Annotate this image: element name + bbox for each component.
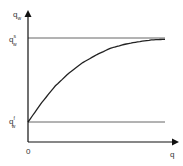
x-axis-arrow-icon	[172, 139, 179, 146]
chart: qw qsw qfw 0 q	[0, 0, 183, 166]
y-axis-arrow-icon	[25, 10, 32, 17]
origin-label: 0	[26, 147, 31, 156]
x-axis-label: q	[170, 150, 174, 159]
y-axis-label: qw	[13, 10, 21, 21]
lower-level-label: qfw	[9, 115, 16, 129]
upper-level-label: qsw	[9, 33, 17, 47]
data-curve	[28, 39, 165, 122]
